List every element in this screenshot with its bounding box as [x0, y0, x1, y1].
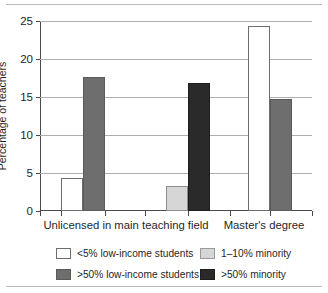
bar: [83, 77, 105, 211]
y-axis-tick-mark-20: [36, 59, 40, 60]
x-axis-tick-3: [145, 211, 146, 216]
legend-label-1: 1–10% minority: [221, 248, 291, 259]
bar: [188, 83, 210, 211]
legend-item-2: >50% low-income students: [56, 269, 184, 280]
y-axis-tick-label-5: 5: [27, 167, 33, 179]
x-axis-tick-1: [61, 211, 62, 216]
top-divider-rule: [6, 4, 322, 5]
x-axis-tick-4: [188, 211, 189, 216]
legend-swatch-icon-1: [200, 248, 215, 259]
x-axis-tick-6: [270, 211, 271, 216]
y-axis-tick-label-20: 20: [20, 53, 33, 65]
plot-area: 0510152025: [40, 21, 312, 211]
gridline-25: [40, 21, 312, 22]
gridline-20: [40, 59, 312, 60]
legend-label-0: <5% low-income students: [77, 248, 193, 259]
legend-item-3: >50% minority: [200, 269, 291, 280]
legend-swatch-icon-2: [56, 269, 71, 280]
y-axis-tick-mark-5: [36, 173, 40, 174]
bar: [248, 26, 270, 211]
y-axis-tick-label-25: 25: [20, 15, 33, 27]
x-axis-category-label-0: Unlicensed in main teaching field: [43, 219, 208, 231]
legend-item-1: 1–10% minority: [200, 248, 291, 259]
bar-chart-figure: Percentage of teachers 0510152025 Unlice…: [0, 0, 328, 293]
legend-swatch-icon-0: [56, 248, 71, 259]
x-axis-tick-7: [312, 211, 313, 216]
y-axis-tick-mark-15: [36, 97, 40, 98]
legend-swatch-icon-3: [200, 269, 215, 280]
y-axis-tick-mark-10: [36, 135, 40, 136]
y-axis-tick-label-10: 10: [20, 129, 33, 141]
bar: [270, 99, 292, 211]
legend-label-2: >50% low-income students: [77, 269, 199, 280]
x-axis-tick-5: [230, 211, 231, 216]
x-axis-tick-2: [105, 211, 106, 216]
y-axis-tick-label-15: 15: [20, 91, 33, 103]
y-axis-title: Percentage of teachers: [0, 62, 8, 171]
bar: [61, 178, 83, 211]
x-axis-tick-0: [40, 211, 41, 216]
y-axis-tick-mark-25: [36, 21, 40, 22]
chart-legend: <5% low-income students 1–10% minority >…: [56, 248, 291, 280]
legend-item-0: <5% low-income students: [56, 248, 184, 259]
bar: [166, 186, 188, 211]
x-axis-category-label-1: Master's degree: [224, 219, 305, 231]
y-axis-tick-label-0: 0: [27, 205, 33, 217]
legend-label-3: >50% minority: [221, 269, 286, 280]
bottom-divider-rule: [6, 286, 322, 287]
